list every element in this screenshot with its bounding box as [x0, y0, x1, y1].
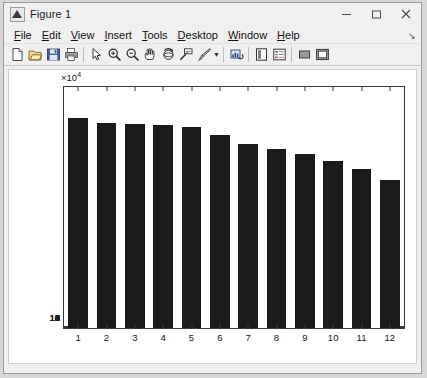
x-tick-mark — [389, 87, 390, 91]
x-tick-label: 12 — [385, 332, 396, 343]
menu-item-insert[interactable]: Insert — [99, 28, 137, 42]
x-tick-label: 10 — [328, 332, 339, 343]
menu-label: nsert — [107, 29, 131, 41]
rotate-3d-button[interactable] — [159, 46, 177, 64]
x-tick-mark — [78, 87, 79, 91]
menu-label: iew — [78, 29, 95, 41]
zoom-in-icon — [107, 47, 122, 62]
x-tick-label: 9 — [302, 332, 307, 343]
menu-label: dit — [49, 29, 61, 41]
new-figure-button[interactable] — [8, 46, 26, 64]
bar[interactable] — [352, 169, 372, 328]
bar[interactable] — [380, 180, 400, 328]
hide-plot-tools-button[interactable] — [295, 46, 313, 64]
x-tick-mark — [361, 87, 362, 91]
menu-mnemonic: H — [277, 29, 285, 41]
brush-data-icon — [197, 47, 212, 62]
menu-mnemonic: E — [42, 29, 49, 41]
bar[interactable] — [238, 144, 258, 328]
bar[interactable] — [97, 123, 117, 328]
edit-plot-pointer-icon — [89, 47, 104, 62]
x-tick-mark — [134, 324, 135, 328]
plot-axes[interactable]: 02468101214123456789101112 — [63, 86, 405, 329]
edit-plot-button[interactable] — [87, 46, 105, 64]
x-tick-mark — [304, 87, 305, 91]
toolbar-separator — [223, 47, 224, 62]
x-tick-mark — [389, 324, 390, 328]
menu-label: indow — [238, 29, 267, 41]
x-tick-label: 2 — [104, 332, 109, 343]
save-figure-icon — [46, 47, 61, 62]
link-plot-button[interactable] — [227, 46, 245, 64]
menu-item-desktop[interactable]: Desktop — [173, 28, 223, 42]
window-title: Figure 1 — [30, 8, 71, 20]
x-tick-mark — [333, 324, 334, 328]
x-tick-mark — [276, 87, 277, 91]
y-axis-exponent-label: ×104 — [61, 71, 81, 83]
save-figure-button[interactable] — [44, 46, 62, 64]
zoom-out-button[interactable] — [123, 46, 141, 64]
menu-mnemonic: W — [228, 29, 238, 41]
bar[interactable] — [153, 125, 173, 328]
bar[interactable] — [210, 135, 230, 328]
zoom-in-button[interactable] — [105, 46, 123, 64]
menu-item-window[interactable]: Window — [223, 28, 272, 42]
x-tick-mark — [191, 324, 192, 328]
menu-item-edit[interactable]: Edit — [37, 28, 66, 42]
menu-item-tools[interactable]: Tools — [137, 28, 173, 42]
legend-icon — [272, 47, 287, 62]
bar[interactable] — [295, 154, 315, 328]
open-file-icon — [28, 47, 43, 62]
x-tick-mark — [106, 87, 107, 91]
menu-mnemonic: V — [71, 29, 78, 41]
x-tick-mark — [163, 324, 164, 328]
menu-item-view[interactable]: View — [66, 28, 100, 42]
zoom-out-icon — [125, 47, 140, 62]
close-icon — [400, 8, 412, 20]
brush-data-button[interactable] — [195, 46, 213, 64]
x-tick-label: 4 — [161, 332, 166, 343]
open-file-button[interactable] — [26, 46, 44, 64]
x-tick-label: 1 — [76, 332, 81, 343]
menu-bar: File Edit View Insert Tools Desktop Wind… — [4, 26, 421, 44]
brush-dropdown-caret-icon[interactable]: ▼ — [213, 51, 220, 58]
link-plot-icon — [229, 47, 244, 62]
menu-label: elp — [285, 29, 300, 41]
close-button[interactable] — [391, 3, 421, 25]
menu-label: ools — [147, 29, 167, 41]
bar[interactable] — [182, 127, 202, 328]
x-tick-label: 8 — [274, 332, 279, 343]
show-plot-tools-icon — [315, 47, 330, 62]
title-bar: Figure 1 — [4, 3, 421, 26]
menu-item-file[interactable]: File — [9, 28, 37, 42]
x-tick-label: 5 — [189, 332, 194, 343]
x-tick-label: 6 — [217, 332, 222, 343]
maximize-button[interactable] — [361, 3, 391, 25]
data-cursor-button[interactable] — [177, 46, 195, 64]
legend-button[interactable] — [270, 46, 288, 64]
bar[interactable] — [68, 118, 88, 328]
figure-window: Figure 1 File Edit View Insert — [3, 2, 422, 374]
window-controls — [331, 3, 421, 25]
figure-canvas[interactable]: ×104 02468101214123456789101112 — [8, 69, 417, 364]
show-plot-tools-button[interactable] — [313, 46, 331, 64]
pan-button[interactable] — [141, 46, 159, 64]
x-tick-label: 7 — [246, 332, 251, 343]
minimize-button[interactable] — [331, 3, 361, 25]
x-tick-mark — [106, 324, 107, 328]
menu-overflow-icon[interactable]: ↘ — [408, 31, 416, 41]
pan-hand-icon — [143, 47, 158, 62]
menu-label: ile — [21, 29, 32, 41]
bar[interactable] — [323, 161, 343, 328]
menu-item-help[interactable]: Help — [272, 28, 305, 42]
colorbar-button[interactable] — [252, 46, 270, 64]
x-tick-mark — [361, 324, 362, 328]
x-tick-mark — [78, 324, 79, 328]
bar[interactable] — [267, 149, 287, 328]
x-tick-label: 11 — [357, 332, 367, 343]
maximize-icon — [371, 9, 382, 20]
bar[interactable] — [125, 124, 145, 328]
data-cursor-icon — [179, 47, 194, 62]
toolbar-separator — [248, 47, 249, 62]
print-figure-button[interactable] — [62, 46, 80, 64]
